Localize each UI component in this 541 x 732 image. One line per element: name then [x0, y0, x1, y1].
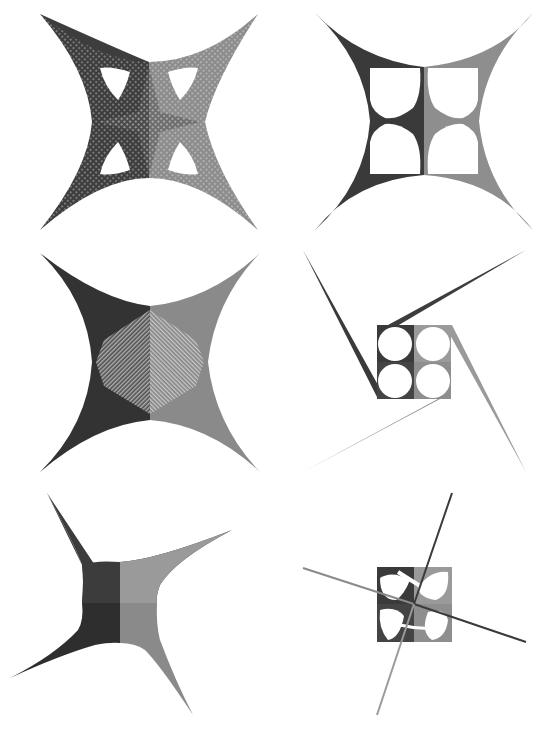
cutout-circle-br — [416, 364, 450, 398]
figure-plate — [0, 0, 541, 732]
cutout-circle-tr — [416, 327, 450, 361]
figure-1-mesh-star — [40, 14, 258, 230]
figure-2-teardrop-star — [315, 13, 533, 230]
figure-3-moire-star — [40, 253, 260, 472]
cutout-circle-tl — [378, 327, 412, 361]
figure-5-rotated-star — [10, 493, 232, 715]
figure-6-crossed-square — [303, 493, 526, 715]
cutout-circle-bl — [378, 364, 412, 398]
figure-4-pinwheel — [303, 250, 526, 472]
